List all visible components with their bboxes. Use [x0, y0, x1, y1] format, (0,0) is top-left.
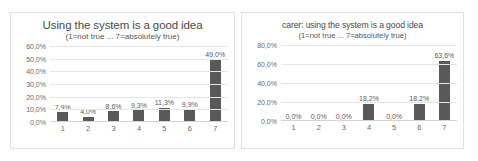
- gridline: [50, 46, 228, 47]
- bar-value-label: 0,0%: [336, 113, 352, 120]
- x-axis-tick-label: 6: [407, 123, 432, 132]
- gridline: [50, 71, 228, 72]
- chart-title: carer: using the system is a good idea: [242, 13, 463, 30]
- y-axis-tick-label: 40,0%: [26, 68, 46, 75]
- y-axis-tick-label: 60,0%: [26, 43, 46, 50]
- x-axis-tick-label: 7: [203, 124, 228, 133]
- gridline: [50, 97, 228, 98]
- bar[interactable]: [363, 104, 374, 121]
- bar-value-label: 49,0%: [205, 51, 225, 58]
- x-axis: 1234567: [281, 123, 457, 132]
- x-axis: 1234567: [50, 124, 228, 133]
- plot-area: 7,9%4,0%8,6%9,3%11,3%9,9%49,0%: [50, 46, 228, 122]
- chart-title: Using the system is a good idea: [11, 13, 234, 31]
- bar-value-label: 9,9%: [182, 101, 198, 108]
- y-axis-tick-label: 20,0%: [26, 93, 46, 100]
- y-axis: 80,0%60,0%40,0%20,0%0,0%: [242, 45, 280, 121]
- y-axis-tick-label: 80,0%: [257, 42, 277, 49]
- x-axis-tick-label: 2: [306, 123, 331, 132]
- bar[interactable]: [439, 61, 450, 121]
- y-axis: 60,0%50,0%40,0%30,0%20,0%10,0%0,0%: [11, 46, 49, 122]
- gridline: [281, 45, 457, 46]
- bar-value-label: 63,6%: [434, 52, 454, 59]
- plot-wrapper: 60,0%50,0%40,0%30,0%20,0%10,0%0,0% 7,9%4…: [11, 46, 234, 138]
- x-axis-tick-label: 7: [432, 123, 457, 132]
- y-axis-tick-label: 50,0%: [26, 55, 46, 62]
- x-axis-tick-label: 3: [101, 124, 126, 133]
- bar-value-label: 0,0%: [286, 113, 302, 120]
- x-axis-tick-label: 4: [356, 123, 381, 132]
- x-axis-line: [50, 121, 228, 122]
- y-axis-tick-label: 20,0%: [257, 99, 277, 106]
- gridline: [281, 64, 457, 65]
- chart-panel-system-good-idea: Using the system is a good idea (1=not t…: [10, 12, 235, 149]
- gridline: [281, 83, 457, 84]
- x-axis-tick-label: 5: [152, 124, 177, 133]
- gridline: [50, 84, 228, 85]
- x-axis-tick-label: 3: [331, 123, 356, 132]
- x-axis-tick-label: 4: [126, 124, 151, 133]
- charts-container: Using the system is a good idea (1=not t…: [0, 0, 478, 161]
- x-axis-line: [281, 120, 457, 121]
- bar-value-label: 11,3%: [155, 99, 174, 106]
- plot-area: 0,0%0,0%0,0%18,2%0,0%18,2%63,6%: [281, 45, 457, 121]
- bar-value-label: 0,0%: [311, 113, 327, 120]
- bar[interactable]: [210, 60, 221, 122]
- x-axis-tick-label: 5: [382, 123, 407, 132]
- y-axis-tick-label: 0,0%: [30, 119, 46, 126]
- chart-panel-carer-good-idea: carer: using the system is a good idea (…: [241, 12, 464, 149]
- chart-subtitle: (1=not true ... 7=absolutely true): [242, 31, 463, 41]
- gridline: [50, 109, 228, 110]
- bar-value-label: 9,3%: [131, 102, 147, 109]
- y-axis-tick-label: 60,0%: [257, 61, 277, 68]
- chart-subtitle: (1=not true ... 7=absolutely true): [11, 32, 234, 42]
- y-axis-tick-label: 30,0%: [26, 81, 46, 88]
- y-axis-tick-label: 10,0%: [26, 106, 46, 113]
- bar-value-label: 0,0%: [386, 113, 402, 120]
- y-axis-tick-label: 0,0%: [261, 118, 277, 125]
- x-axis-tick-label: 2: [75, 124, 100, 133]
- gridline: [281, 102, 457, 103]
- x-axis-tick-label: 1: [50, 124, 75, 133]
- gridline: [50, 59, 228, 60]
- x-axis-tick-label: 1: [281, 123, 306, 132]
- x-axis-tick-label: 6: [177, 124, 202, 133]
- y-axis-tick-label: 40,0%: [257, 80, 277, 87]
- bar[interactable]: [414, 104, 425, 121]
- plot-wrapper: 80,0%60,0%40,0%20,0%0,0% 0,0%0,0%0,0%18,…: [242, 45, 463, 137]
